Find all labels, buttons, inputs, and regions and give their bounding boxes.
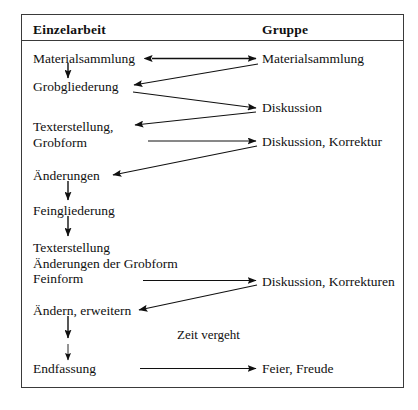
column-header-gruppe: Gruppe [262,22,308,38]
node-line: Texterstellung, [33,119,113,135]
node-texterstellung-feinform: Texterstellung Änderungen der Grobform F… [33,240,178,287]
node-aendern-erweitern: Ändern, erweitern [33,303,131,318]
node-line: Grobform [33,135,113,151]
node-grobgliederung: Grobgliederung [33,79,118,94]
node-gruppe-diskussion-korrekturen: Diskussion, Korrekturen [262,274,395,289]
node-gruppe-diskussion: Diskussion [262,100,322,115]
node-line: Texterstellung [33,240,178,256]
node-feingliederung: Feingliederung [33,203,115,218]
node-gruppe-diskussion-korrektur: Diskussion, Korrektur [262,134,382,149]
node-line: Änderungen der Grobform [33,256,178,272]
node-materialsammlung: Materialsammlung [33,51,135,66]
diagram-page: Einzelarbeit Gruppe Materialsammlung Gro… [0,0,418,410]
node-gruppe-materialsammlung: Materialsammlung [262,51,364,66]
annotation-zeit-vergeht: Zeit vergeht [177,327,240,343]
header-divider-rule [22,40,403,41]
node-line: Feinform [33,271,178,287]
column-header-einzelarbeit: Einzelarbeit [33,22,106,38]
node-texterstellung-grobform: Texterstellung, Grobform [33,119,113,150]
node-aenderungen: Änderungen [33,168,100,183]
node-endfassung: Endfassung [33,361,96,376]
node-gruppe-feier-freude: Feier, Freude [262,361,333,376]
